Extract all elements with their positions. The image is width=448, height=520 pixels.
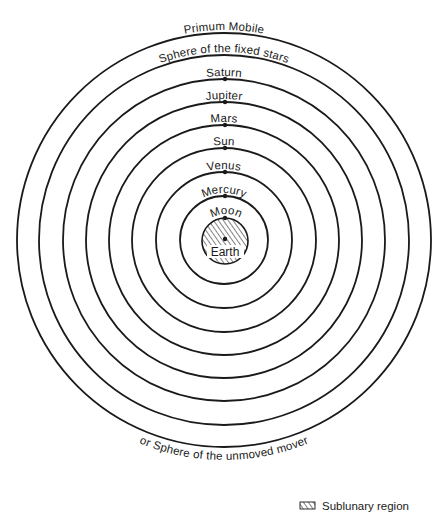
legend-label: Sublunary region [322, 500, 409, 512]
label-saturn: Saturn [206, 66, 243, 79]
label-sun: Sun [213, 135, 235, 148]
label-jupiter: Jupiter [205, 89, 243, 102]
earth-center-dot [223, 237, 227, 241]
earth-label: Earth [211, 245, 240, 259]
label-venus: Venus [206, 159, 243, 173]
legend-hatch-swatch [300, 502, 315, 509]
geocentric-spheres-diagram: Earth Primum Mobile Sphere of the fixed … [0, 0, 448, 520]
moon-dot [223, 216, 227, 220]
legend: Sublunary region [300, 500, 409, 512]
label-mars: Mars [210, 112, 238, 125]
